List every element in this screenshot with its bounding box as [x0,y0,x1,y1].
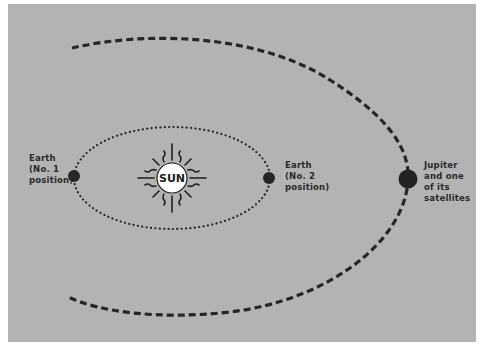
earth-1-label: Earth (No. 1 position) [29,153,73,186]
jupiter-label: Jupiter and one of its satellites [424,160,470,204]
earth-2-label: Earth (No. 2 position) [285,160,329,193]
sun-label: SUN [159,172,185,185]
jupiter-planet [399,170,418,189]
sun-icon: SUN [138,144,206,212]
jupiter-orbit-path [68,38,408,315]
earth-position-2 [263,172,275,184]
